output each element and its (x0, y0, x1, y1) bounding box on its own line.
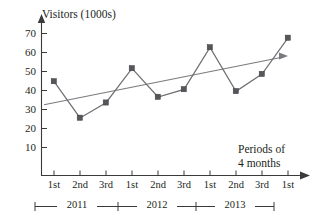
visitors-series-line (54, 38, 288, 118)
data-point (181, 87, 186, 92)
data-point (51, 79, 56, 84)
year-label-2013: 2013 (215, 200, 255, 211)
data-point (155, 94, 160, 99)
x-axis-title-line2: 4 months (238, 157, 281, 169)
data-point (233, 89, 238, 94)
data-point (129, 66, 134, 71)
arrow-right-icon (300, 172, 310, 180)
y-tick-label-30: 30 (14, 104, 36, 115)
y-axis (38, 14, 47, 176)
y-axis-title: Visitors (1000s) (42, 9, 116, 21)
x-axis-title-line1: Periods of (238, 143, 285, 155)
y-tick-label-50: 50 (14, 66, 36, 77)
trend-line (44, 57, 282, 104)
y-tick-label-60: 60 (14, 47, 36, 58)
visitors-data-points (51, 35, 290, 120)
data-point (77, 115, 82, 120)
x-tick-label-9: 1st (273, 180, 303, 191)
x-axis-ticks (54, 171, 288, 176)
year-label-2011: 2011 (57, 200, 97, 211)
trend-line-group (44, 53, 288, 105)
year-label-2012: 2012 (137, 200, 177, 211)
y-axis-ticks (42, 34, 48, 148)
chart-figure: Visitors (1000s) Periods of 4 months 70 … (0, 0, 322, 222)
x-axis-title: Periods of 4 months (238, 143, 316, 170)
y-tick-label-20: 20 (14, 123, 36, 134)
y-tick-label-10: 10 (14, 142, 36, 153)
data-point (207, 45, 212, 50)
data-point (103, 100, 108, 105)
y-tick-label-70: 70 (14, 28, 36, 39)
data-point (259, 71, 264, 76)
y-tick-label-40: 40 (14, 85, 36, 96)
arrow-right-icon (279, 53, 288, 60)
data-point (285, 35, 290, 40)
